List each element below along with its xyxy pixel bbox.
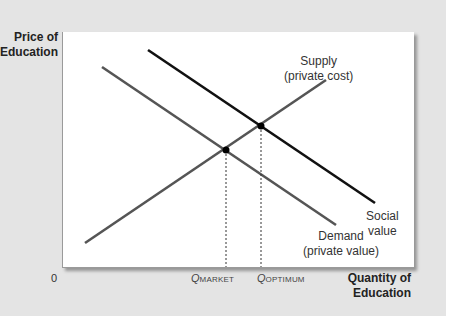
chart-svg — [0, 0, 456, 316]
x-axis-label: Quantity of Education — [348, 271, 411, 301]
y-axis-label-line2: Education — [0, 45, 58, 60]
supply-curve — [85, 80, 326, 243]
demand-label-line2: (private value) — [303, 244, 379, 259]
q-optimum-sub: OPTIMUM — [266, 275, 305, 284]
social-value-label: Social value — [366, 209, 399, 239]
q-market-label: QMARKET — [191, 272, 234, 284]
supply-label: Supply (private cost) — [284, 54, 353, 84]
supply-label-line1: Supply — [284, 54, 353, 69]
y-axis-label-line1: Price of — [0, 30, 58, 45]
supply-label-line2: (private cost) — [284, 69, 353, 84]
social-value-label-line2: value — [366, 224, 399, 239]
optimum-point — [258, 123, 265, 130]
q-market-main: Q — [191, 272, 200, 284]
social-value-label-line1: Social — [366, 209, 399, 224]
y-axis-label: Price of Education — [0, 30, 58, 60]
q-optimum-label: QOPTIMUM — [257, 272, 305, 284]
x-axis-label-line2: Education — [348, 286, 411, 301]
demand-curve — [102, 67, 336, 225]
market-equilibrium-point — [223, 147, 230, 154]
q-optimum-main: Q — [257, 272, 266, 284]
q-market-sub: MARKET — [200, 275, 235, 284]
x-axis-label-line1: Quantity of — [348, 271, 411, 286]
origin-label: 0 — [51, 272, 57, 284]
